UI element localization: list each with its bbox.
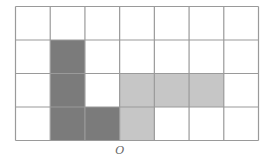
dark-shaded-cell [85,107,120,141]
light-shaded-cell [120,107,155,141]
light-shaded-cell [189,74,224,108]
grid-diagram: O [0,0,267,161]
shaded-cells [50,40,224,141]
dark-shaded-cell [50,74,85,108]
dark-shaded-cell [50,40,85,74]
light-shaded-cell [154,74,189,108]
point-label-o: O [115,144,124,157]
dark-shaded-cell [50,107,85,141]
light-shaded-cell [120,74,155,108]
